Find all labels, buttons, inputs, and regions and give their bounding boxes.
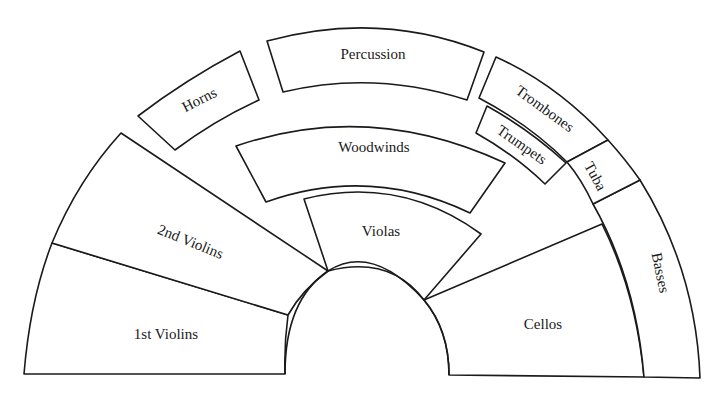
- section-horns: Horns: [138, 51, 259, 150]
- label-first-violins: 1st Violins: [134, 326, 198, 342]
- orchestra-seating-diagram: 1st Violins 2nd Violins Violas Cellos Ba…: [0, 0, 724, 402]
- label-percussion: Percussion: [341, 46, 406, 62]
- label-woodwinds: Woodwinds: [338, 139, 409, 155]
- section-percussion: Percussion: [267, 28, 484, 100]
- section-violas: Violas: [304, 192, 481, 300]
- label-violas: Violas: [362, 223, 400, 239]
- label-cellos: Cellos: [524, 316, 562, 332]
